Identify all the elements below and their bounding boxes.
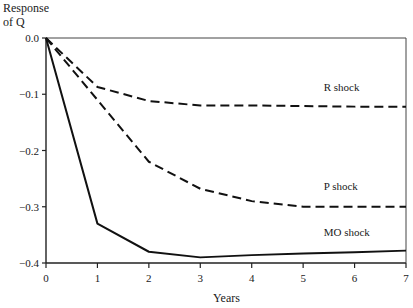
x-tick-label: 6 bbox=[352, 272, 358, 284]
series-labels: R shockP shockMO shock bbox=[324, 81, 371, 238]
series-label-mo-shock: MO shock bbox=[324, 226, 371, 238]
series-label-r-shock: R shock bbox=[324, 81, 360, 93]
x-tick-label: 3 bbox=[198, 272, 204, 284]
x-tick-label: 0 bbox=[43, 272, 49, 284]
series-line-r-shock bbox=[46, 38, 406, 107]
y-tick-label: −0.3 bbox=[19, 201, 39, 213]
y-tick-label: −0.2 bbox=[19, 145, 39, 157]
x-tick-label: 7 bbox=[403, 272, 409, 284]
y-tick-label: −0.1 bbox=[19, 88, 39, 100]
x-axis-label: Years bbox=[0, 291, 413, 306]
plot-series bbox=[46, 38, 406, 257]
line-chart: 0.0−0.1−0.2−0.3−0.401234567 R shockP sho… bbox=[0, 0, 413, 308]
series-line-mo-shock bbox=[46, 38, 406, 257]
plot-axes: 0.0−0.1−0.2−0.3−0.401234567 bbox=[19, 32, 409, 284]
x-tick-label: 1 bbox=[95, 272, 101, 284]
y-tick-label: 0.0 bbox=[25, 32, 39, 44]
y-tick-label: −0.4 bbox=[19, 257, 39, 269]
x-tick-label: 2 bbox=[146, 272, 152, 284]
series-label-p-shock: P shock bbox=[324, 180, 359, 192]
x-tick-label: 4 bbox=[249, 272, 255, 284]
x-tick-label: 5 bbox=[300, 272, 306, 284]
